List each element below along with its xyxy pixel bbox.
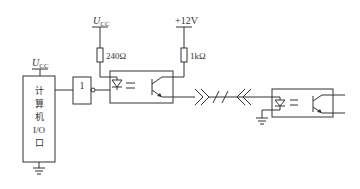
io-label-line-5: 口 [35, 138, 44, 148]
io-label-line-2: 算 [35, 98, 44, 109]
io-label-line-4: I/O [33, 125, 45, 135]
circuit-diagram: UCC 计 算 机 I/O 口 1 UCC 240Ω [0, 0, 360, 189]
optocoupler-tx [110, 71, 173, 103]
ground-icon-left [33, 162, 45, 174]
resistor-1k: +12V 1kΩ [173, 15, 206, 77]
plus12v-label: +12V [175, 15, 199, 26]
ucc-label-mid: UCC [93, 15, 110, 28]
optocoupler-rx [256, 89, 345, 124]
transmission-cable [162, 89, 280, 105]
ground-icon-right [256, 118, 268, 124]
io-label-line-3: 机 [35, 111, 44, 122]
ucc-label-left: UCC [32, 57, 49, 70]
inverter-gate: 1 [73, 77, 95, 104]
resistor-240: UCC 240Ω [92, 15, 127, 77]
io-label-line-1: 计 [35, 85, 44, 96]
resistor-1k-label: 1kΩ [190, 51, 206, 61]
inverter-label: 1 [80, 80, 85, 91]
resistor-240-label: 240Ω [106, 51, 127, 61]
computer-io-block: UCC 计 算 机 I/O 口 [23, 57, 55, 174]
